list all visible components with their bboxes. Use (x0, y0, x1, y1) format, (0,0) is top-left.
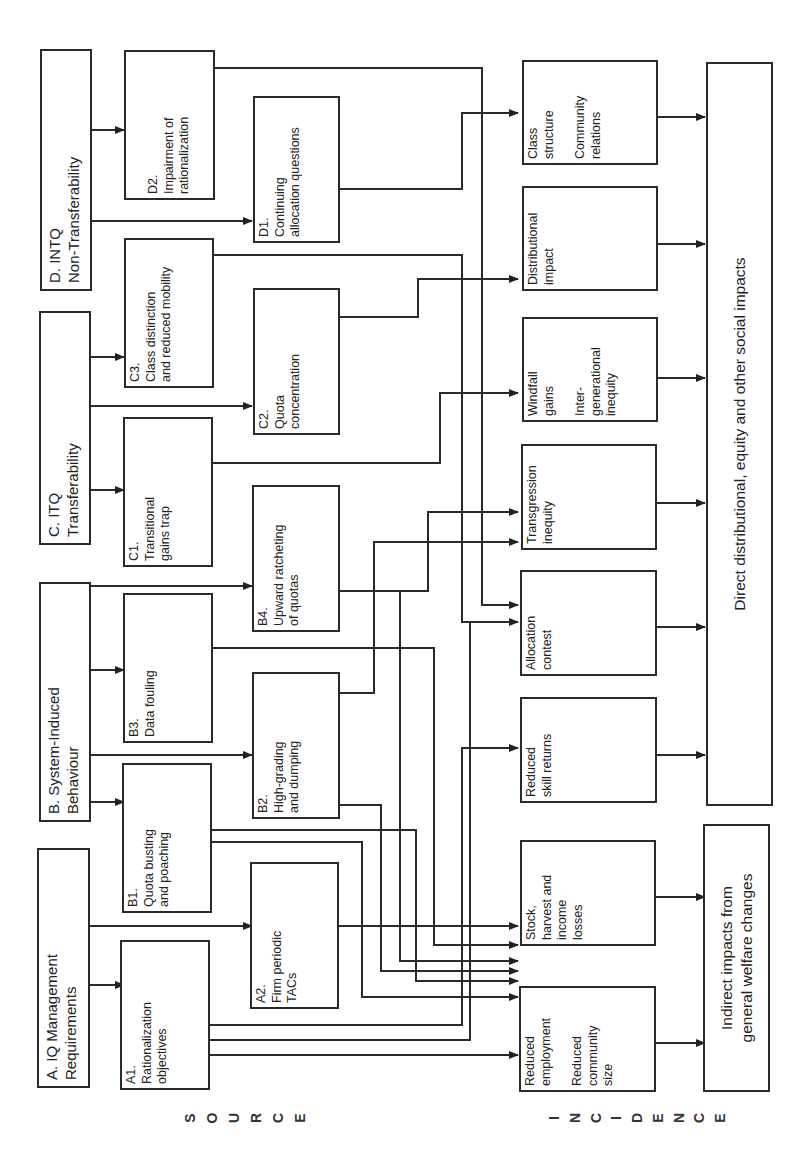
source-letter: E (292, 1110, 312, 1126)
incidence-letter: C (588, 1110, 608, 1126)
source-letter: S (182, 1110, 202, 1126)
incidence-letter: E (650, 1110, 670, 1126)
incidence-transgression-label: Transgression inequity (523, 446, 655, 548)
incidence-class-label: Class structure Community relations (524, 62, 656, 163)
outcome-direct-label: Direct distributional, equity and other … (708, 64, 771, 804)
source-b-label: B. System-Induced Behaviour (41, 584, 93, 824)
outcome-indirect-label: Indirect impacts from general welfare ch… (705, 826, 768, 1090)
node-c3: C3. Class distinction and reduced mobili… (124, 238, 214, 388)
node-d1: D1. Continuing allocation questions (253, 96, 340, 243)
source-box-c: C. ITQ Transferability (39, 311, 91, 545)
incidence-class-structure: Class structure Community relations (522, 60, 658, 165)
impact-flow-diagram: D. INTQ Non-Transferability C. ITQ Trans… (0, 0, 802, 1159)
source-box-a: A. IQ Management Requirements (37, 848, 90, 1088)
source-letter: C (270, 1110, 290, 1126)
node-c1-label: C1. Transitional gains trap (125, 419, 211, 565)
incidence-axis-label: I N C I D E N C E (548, 1108, 730, 1128)
node-b2-label: B2. High-grading and dumping (254, 674, 338, 817)
incidence-letter: C (691, 1110, 711, 1126)
incidence-letter: I (608, 1110, 628, 1126)
node-b4: B4. Upward ratcheting of quotas (252, 485, 340, 632)
node-d1-label: D1. Continuing allocation questions (255, 98, 338, 241)
node-c1: C1. Transitional gains trap (123, 417, 213, 567)
node-a2-label: A2. Firm periodic TACs (252, 864, 337, 1007)
incidence-letter: E (712, 1110, 732, 1126)
incidence-allocation: Allocation contest (520, 570, 657, 676)
incidence-windfall: Windfall gains Inter- generational inequ… (522, 317, 658, 422)
incidence-allocation-label: Allocation contest (522, 572, 655, 674)
incidence-transgression: Transgression inequity (521, 444, 657, 550)
incidence-skill-label: Reduced skill returns (522, 699, 655, 801)
node-c2: C2. Quota concentration (253, 288, 340, 435)
incidence-skill: Reduced skill returns (520, 697, 657, 803)
incidence-employment: Reduced employment Reduced community siz… (519, 986, 656, 1092)
incidence-letter: I (546, 1110, 566, 1126)
node-c2-label: C2. Quota concentration (255, 290, 338, 433)
source-box-b: B. System-Induced Behaviour (39, 582, 91, 822)
source-d-label: D. INTQ Non-Transferability (42, 51, 94, 293)
incidence-stock-label: Stock, harvest and income losses (522, 842, 654, 944)
incidence-windfall-label: Windfall gains Inter- generational inequ… (524, 319, 656, 420)
incidence-distributional-label: Distributional impact (524, 188, 656, 289)
incidence-distributional: Distributional impact (522, 186, 658, 291)
outcome-indirect-impacts: Indirect impacts from general welfare ch… (703, 824, 770, 1092)
node-b3: B3. Data fouling (123, 593, 213, 743)
node-b2: B2. High-grading and dumping (252, 672, 340, 819)
node-b1: B1. Quota busting and poaching (122, 763, 212, 913)
source-letter: R (248, 1110, 268, 1126)
outcome-direct-impacts: Direct distributional, equity and other … (706, 62, 773, 806)
node-a1: A1. Rationalization objectives (120, 940, 210, 1090)
node-b3-label: B3. Data fouling (125, 595, 211, 741)
node-d2: D2. Impairment of rationalization (124, 50, 215, 200)
source-letter: U (226, 1110, 246, 1126)
node-a1-label: A1. Rationalization objectives (122, 942, 208, 1088)
source-box-d: D. INTQ Non-Transferability (40, 49, 92, 291)
source-a-label: A. IQ Management Requirements (39, 850, 92, 1090)
node-b4-label: B4. Upward ratcheting of quotas (254, 487, 338, 630)
node-b1-label: B1. Quota busting and poaching (124, 765, 210, 911)
incidence-employment-label: Reduced employment Reduced community siz… (521, 988, 654, 1090)
incidence-letter: N (567, 1110, 587, 1126)
incidence-letter: N (671, 1110, 691, 1126)
source-axis-label: S O U R C E (184, 1108, 310, 1128)
node-d2-label: D2. Impairment of rationalization (126, 52, 213, 198)
node-c3-label: C3. Class distinction and reduced mobili… (126, 240, 212, 386)
incidence-letter: D (629, 1110, 649, 1126)
source-c-label: C. ITQ Transferability (41, 313, 93, 547)
incidence-stock: Stock, harvest and income losses (520, 840, 656, 946)
node-a2: A2. Firm periodic TACs (250, 862, 339, 1009)
source-letter: O (204, 1110, 224, 1126)
